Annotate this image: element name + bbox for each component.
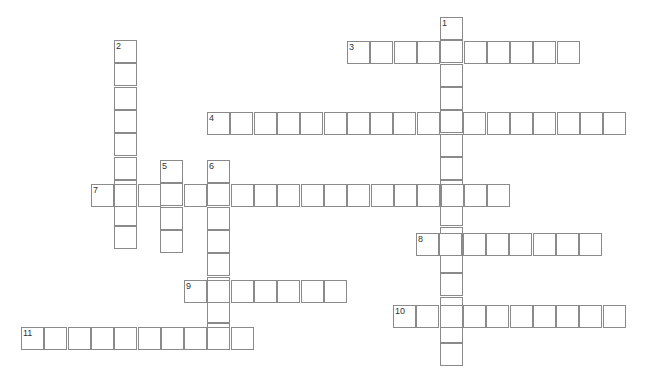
crossword-cell[interactable]: [207, 230, 230, 253]
crossword-cell[interactable]: [510, 41, 533, 64]
crossword-cell[interactable]: [114, 327, 137, 350]
crossword-cell[interactable]: [370, 112, 393, 135]
crossword-cell[interactable]: [138, 327, 161, 350]
crossword-cell[interactable]: [324, 184, 347, 207]
crossword-cell[interactable]: [277, 280, 300, 303]
crossword-cell[interactable]: 11: [21, 327, 44, 350]
crossword-cell[interactable]: [114, 133, 137, 156]
crossword-cell[interactable]: [114, 87, 137, 110]
crossword-cell[interactable]: [440, 343, 463, 366]
crossword-cell[interactable]: [301, 184, 324, 207]
crossword-cell[interactable]: [440, 157, 463, 180]
crossword-cell[interactable]: [557, 41, 580, 64]
crossword-cell[interactable]: [440, 305, 463, 328]
crossword-cell[interactable]: [114, 110, 137, 133]
crossword-cell[interactable]: [440, 40, 463, 63]
crossword-cell[interactable]: [324, 280, 347, 303]
crossword-cell[interactable]: [231, 280, 254, 303]
crossword-cell[interactable]: [324, 112, 347, 135]
crossword-cell[interactable]: [277, 112, 300, 135]
crossword-cell[interactable]: [207, 253, 230, 276]
crossword-cell[interactable]: [417, 112, 440, 135]
crossword-cell[interactable]: [370, 41, 393, 64]
crossword-cell[interactable]: [394, 184, 417, 207]
crossword-cell[interactable]: [347, 184, 370, 207]
crossword-cell[interactable]: [440, 273, 463, 296]
crossword-cell[interactable]: [160, 183, 183, 206]
crossword-cell[interactable]: [463, 233, 486, 256]
crossword-cell[interactable]: [533, 305, 556, 328]
crossword-cell[interactable]: [300, 112, 323, 135]
crossword-cell[interactable]: 3: [347, 41, 370, 64]
crossword-cell[interactable]: [301, 280, 324, 303]
crossword-cell[interactable]: [231, 327, 254, 350]
crossword-cell[interactable]: 4: [207, 112, 230, 135]
crossword-cell[interactable]: [579, 305, 602, 328]
crossword-cell[interactable]: [440, 87, 463, 110]
crossword-cell[interactable]: [509, 233, 532, 256]
crossword-cell[interactable]: [487, 112, 510, 135]
crossword-cell[interactable]: [510, 305, 533, 328]
crossword-cell[interactable]: 9: [184, 280, 207, 303]
crossword-cell[interactable]: [114, 157, 137, 180]
crossword-cell[interactable]: [160, 207, 183, 230]
crossword-cell[interactable]: [464, 184, 487, 207]
crossword-cell[interactable]: [114, 63, 137, 86]
crossword-cell[interactable]: [556, 305, 579, 328]
crossword-cell[interactable]: 1: [440, 17, 463, 40]
crossword-cell[interactable]: [440, 64, 463, 87]
crossword-cell[interactable]: [114, 184, 137, 207]
crossword-cell[interactable]: 10: [393, 305, 416, 328]
crossword-cell[interactable]: [207, 327, 230, 350]
crossword-cell[interactable]: [463, 112, 486, 135]
crossword-cell[interactable]: [440, 110, 463, 133]
crossword-cell[interactable]: [230, 112, 253, 135]
crossword-cell[interactable]: [603, 112, 626, 135]
crossword-cell[interactable]: [440, 134, 463, 157]
crossword-cell[interactable]: [463, 305, 486, 328]
crossword-cell[interactable]: [417, 41, 440, 64]
crossword-cell[interactable]: [231, 184, 254, 207]
crossword-cell[interactable]: [533, 112, 556, 135]
crossword-cell[interactable]: [371, 184, 394, 207]
crossword-cell[interactable]: [557, 112, 580, 135]
crossword-cell[interactable]: 2: [114, 40, 137, 63]
crossword-cell[interactable]: 7: [91, 184, 114, 207]
crossword-cell[interactable]: 5: [160, 160, 183, 183]
crossword-cell[interactable]: [207, 183, 230, 206]
crossword-cell[interactable]: [44, 327, 67, 350]
crossword-cell[interactable]: [603, 305, 626, 328]
crossword-cell[interactable]: [161, 327, 184, 350]
crossword-cell[interactable]: [439, 233, 462, 256]
crossword-cell[interactable]: [416, 305, 439, 328]
crossword-cell[interactable]: [68, 327, 91, 350]
crossword-cell[interactable]: 8: [416, 233, 439, 256]
crossword-cell[interactable]: 6: [207, 160, 230, 183]
crossword-cell[interactable]: [533, 41, 556, 64]
crossword-cell[interactable]: [184, 184, 207, 207]
crossword-cell[interactable]: [207, 207, 230, 230]
crossword-cell[interactable]: [207, 280, 230, 303]
crossword-cell[interactable]: [486, 233, 509, 256]
crossword-cell[interactable]: [91, 327, 114, 350]
crossword-cell[interactable]: [556, 233, 579, 256]
crossword-cell[interactable]: [487, 41, 510, 64]
crossword-cell[interactable]: [277, 184, 300, 207]
crossword-cell[interactable]: [394, 41, 417, 64]
crossword-cell[interactable]: [486, 305, 509, 328]
crossword-cell[interactable]: [417, 184, 440, 207]
crossword-cell[interactable]: [580, 112, 603, 135]
crossword-cell[interactable]: [207, 300, 230, 323]
crossword-cell[interactable]: [138, 184, 161, 207]
crossword-cell[interactable]: [347, 112, 370, 135]
crossword-cell[interactable]: [160, 230, 183, 253]
crossword-cell[interactable]: [114, 226, 137, 249]
crossword-cell[interactable]: [464, 41, 487, 64]
crossword-cell[interactable]: [579, 233, 602, 256]
crossword-cell[interactable]: [487, 184, 510, 207]
crossword-cell[interactable]: [254, 280, 277, 303]
crossword-cell[interactable]: [510, 112, 533, 135]
crossword-cell[interactable]: [254, 184, 277, 207]
crossword-cell[interactable]: [441, 184, 464, 207]
crossword-cell[interactable]: [254, 112, 277, 135]
